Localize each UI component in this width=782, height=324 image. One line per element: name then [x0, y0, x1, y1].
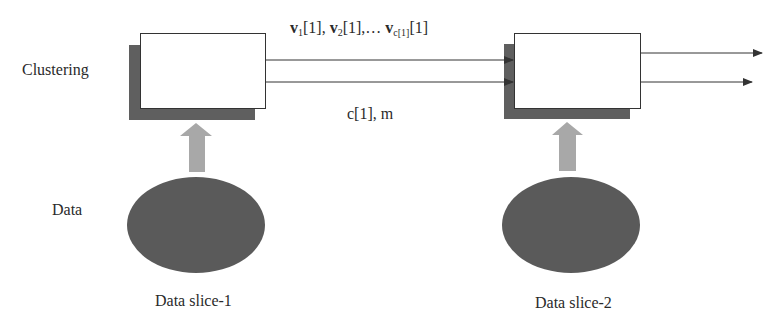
data-slice-1-ellipse	[127, 177, 265, 273]
block-arrow-up-icon	[180, 123, 212, 172]
subscript: c[1]	[393, 27, 409, 38]
data-slice-2-ellipse	[502, 177, 640, 273]
vector-symbol: v	[290, 19, 298, 36]
edge-text: [1],	[303, 19, 330, 36]
clustering-block-1	[129, 34, 266, 121]
vector-symbol: v	[330, 19, 338, 36]
data-slice-2-label: Data slice-2	[535, 294, 612, 312]
edge-text: [1],…	[343, 19, 386, 36]
clustering-block-2	[504, 34, 641, 120]
diagram-canvas	[0, 0, 782, 324]
data-slice-1-label: Data slice-1	[155, 292, 232, 310]
edge-label-prototypes: v1[1], v2[1],… vc[1][1]	[290, 19, 428, 38]
row-label-clustering: Clustering	[22, 61, 89, 79]
edge-text: [1]	[409, 19, 428, 36]
block-box	[515, 34, 641, 109]
block-box	[141, 34, 266, 109]
block-arrow-up-icon	[552, 122, 583, 171]
row-label-data: Data	[52, 201, 82, 219]
edge-label-count-m: c[1], m	[347, 105, 393, 123]
